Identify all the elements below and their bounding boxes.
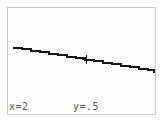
graph-plot <box>8 8 155 94</box>
plot-area[interactable] <box>8 8 155 94</box>
calculator-screen: x=2 y=.5 <box>0 0 165 123</box>
y-coordinate-readout: y=.5 <box>73 101 99 112</box>
x-coordinate-readout: x=2 <box>9 101 29 112</box>
screen-frame: x=2 y=.5 <box>7 7 156 115</box>
status-bar: x=2 y=.5 <box>8 94 155 114</box>
trace-cursor-icon <box>82 55 91 64</box>
